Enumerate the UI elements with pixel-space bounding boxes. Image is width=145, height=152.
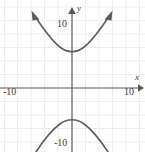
y-axis-name-label: y [77,3,81,13]
graph-figure: -10 10 10 -10 x y [0,0,145,152]
curve-upper-right-arrowhead [105,11,113,21]
x-axis-arrowhead [138,84,144,92]
curve-upper-left-arrowhead [32,11,40,21]
x-axis-name-label: x [135,72,139,82]
y-axis-arrowhead [68,7,76,14]
x-axis-tick-label-neg10: -10 [3,86,16,97]
coordinate-plane [0,0,145,152]
y-axis-tick-label-neg10: -10 [54,137,67,148]
x-axis-tick-label-pos10: 10 [124,86,134,97]
y-axis-tick-label-pos10: 10 [57,18,67,29]
axes [0,10,139,152]
